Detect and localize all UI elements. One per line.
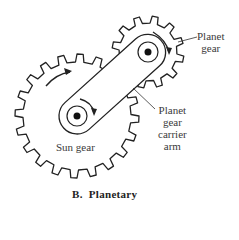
- sun-gear-label: Sun gear: [56, 141, 95, 153]
- figure-caption: B. Planetary: [72, 188, 137, 200]
- carrier-arm-label: Planet gear carrier arm: [158, 104, 187, 152]
- planet-gear-label: Planet gear: [197, 30, 225, 54]
